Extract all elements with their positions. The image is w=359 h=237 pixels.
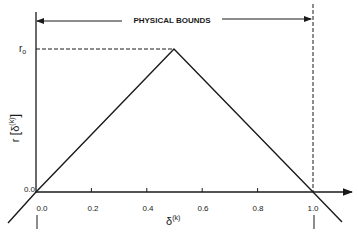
svg-text:0.2: 0.2	[87, 204, 99, 213]
x-tick-labels: 0.0 0.2 0.4 0.6 0.8 1.0	[36, 204, 319, 213]
y-axis-label: r [δ(k)]	[7, 114, 22, 142]
y-origin-label: 0.0	[24, 185, 36, 194]
svg-text:0.6: 0.6	[197, 204, 209, 213]
triangular-function-figure: PHYSICAL BOUNDS ro 0.0 0.0 0.2 0.4 0.6 0…	[0, 0, 359, 237]
bounds-label: PHYSICAL BOUNDS	[133, 16, 211, 25]
triangle-function-line	[8, 49, 342, 223]
svg-text:0.8: 0.8	[252, 204, 264, 213]
svg-text:0.4: 0.4	[142, 204, 154, 213]
chart-svg: PHYSICAL BOUNDS ro 0.0 0.0 0.2 0.4 0.6 0…	[0, 0, 359, 237]
x-axis-label: δ(k)	[166, 214, 180, 227]
svg-text:0.0: 0.0	[36, 204, 48, 213]
r0-label: ro	[19, 43, 26, 55]
svg-text:1.0: 1.0	[307, 204, 319, 213]
